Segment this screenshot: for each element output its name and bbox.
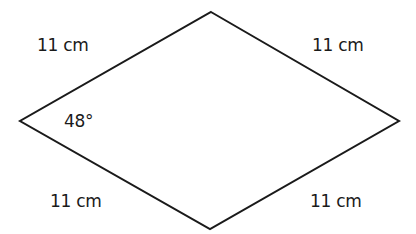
side-label-bottom-left: 11 cm	[50, 191, 101, 211]
angle-label: 48°	[64, 111, 93, 131]
side-label-bottom-right: 11 cm	[310, 191, 361, 211]
rhombus-diagram: 11 cm 11 cm 11 cm 11 cm 48°	[0, 0, 416, 234]
side-label-top-right: 11 cm	[312, 35, 363, 55]
side-label-top-left: 11 cm	[37, 35, 88, 55]
